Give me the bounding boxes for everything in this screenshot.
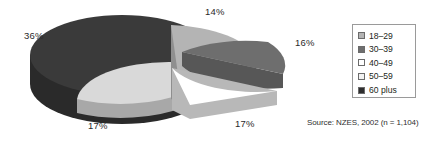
legend-swatch-icon-50-59 (358, 73, 365, 80)
legend-item-18-29[interactable]: 18–29 (358, 29, 415, 43)
legend-label-30-39: 30–39 (369, 45, 393, 54)
legend-swatch-icon-60-plus (358, 87, 365, 94)
slice-label-40-49: 17% (235, 119, 255, 129)
legend-item-30-39[interactable]: 30–39 (358, 43, 415, 57)
legend-item-40-49[interactable]: 40–49 (358, 56, 415, 70)
slice-label-30-39: 16% (295, 38, 315, 48)
slice-label-18-29: 14% (205, 7, 225, 17)
legend-label-50-59: 50–59 (369, 72, 393, 81)
legend-swatch-icon-18-29 (358, 32, 365, 39)
chart-legend: 18–29 30–39 40–49 50–59 60 plus (352, 24, 416, 98)
slice-label-60-plus: 36% (24, 31, 44, 41)
chart-source-note: Source: NZES, 2002 (n = 1,104) (307, 118, 419, 127)
legend-item-50-59[interactable]: 50–59 (358, 70, 415, 84)
legend-swatch-icon-40-49 (358, 59, 365, 66)
legend-swatch-icon-30-39 (358, 46, 365, 53)
legend-label-18-29: 18–29 (369, 32, 393, 41)
legend-label-60-plus: 60 plus (369, 86, 397, 95)
legend-label-40-49: 40–49 (369, 59, 393, 68)
pie-chart-graphic (0, 0, 300, 141)
pie-chart-figure: 36% 14% 17% 16% 17% 18–29 30–39 40–49 50… (0, 0, 425, 141)
pie-chart-plot-area: 36% 14% 17% (0, 0, 300, 141)
slice-label-50-59: 17% (88, 121, 108, 131)
legend-item-60-plus[interactable]: 60 plus (358, 83, 415, 97)
